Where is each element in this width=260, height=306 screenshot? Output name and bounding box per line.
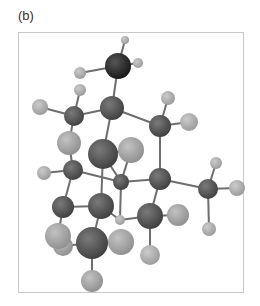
atom-hydrogen <box>32 99 48 115</box>
atom-light-atom <box>108 229 134 255</box>
atom-hydrogen <box>74 67 86 79</box>
atom-light-atom <box>167 204 189 226</box>
atom-carbon <box>64 106 84 126</box>
atom-carbon <box>63 160 83 180</box>
atom-carbon <box>100 96 124 120</box>
atom-light-atom <box>81 270 103 292</box>
atom-light-atom <box>45 223 71 249</box>
atom-carbon <box>76 227 108 259</box>
atom-carbon <box>52 196 74 218</box>
atom-hydrogen <box>229 180 245 196</box>
atom-hydrogen <box>74 84 86 96</box>
atom-heavy-dark <box>105 53 131 79</box>
atom-carbon <box>149 115 171 137</box>
atom-carbon <box>88 193 114 219</box>
atom-hydrogen <box>210 157 222 169</box>
atom-carbon <box>88 139 118 169</box>
molecule-model <box>0 0 260 306</box>
atom-carbon <box>198 179 218 199</box>
atom-hydrogen <box>37 166 51 180</box>
atom-layer <box>32 36 245 292</box>
atom-hydrogen <box>133 58 143 68</box>
atom-hydrogen <box>180 113 198 131</box>
atom-light-atom <box>118 137 144 163</box>
atom-carbon <box>149 168 171 190</box>
atom-hydrogen <box>202 222 216 236</box>
atom-hydrogen <box>115 215 125 225</box>
atom-hydrogen <box>161 91 175 105</box>
atom-hydrogen <box>121 36 129 44</box>
atom-light-atom <box>57 131 81 155</box>
atom-carbon <box>137 203 163 229</box>
atom-carbon <box>113 174 129 190</box>
atom-hydrogen <box>140 245 160 265</box>
